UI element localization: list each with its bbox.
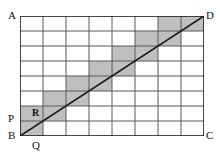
point-label-p: P xyxy=(8,113,14,124)
grid-container xyxy=(20,16,204,136)
grid-svg xyxy=(20,16,204,136)
vertex-label-b: B xyxy=(8,130,15,141)
vertex-label-a: A xyxy=(8,10,16,21)
shaded-cell xyxy=(112,46,135,61)
shaded-cell xyxy=(158,16,181,31)
vertex-label-c: C xyxy=(206,130,213,141)
point-label-q: Q xyxy=(32,140,40,151)
geometry-figure: A D B C P Q R xyxy=(0,0,220,154)
shaded-cell xyxy=(43,91,66,106)
shaded-cell xyxy=(89,61,112,76)
vertex-label-d: D xyxy=(206,10,214,21)
shaded-cell xyxy=(135,31,158,46)
shaded-cell xyxy=(66,76,89,91)
point-label-r: R xyxy=(32,108,39,118)
